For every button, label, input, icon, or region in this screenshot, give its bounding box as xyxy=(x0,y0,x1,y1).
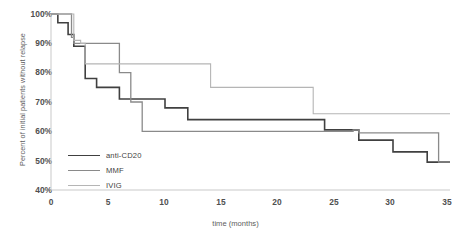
series-line-anti-cd20 xyxy=(51,14,450,162)
legend: anti-CD20 MMF IVIG xyxy=(68,148,142,193)
legend-item-anti-cd20: anti-CD20 xyxy=(68,148,142,163)
plot-area xyxy=(0,0,471,237)
legend-swatch-ivig xyxy=(68,185,100,186)
legend-label-mmf: MMF xyxy=(106,166,124,175)
legend-swatch-anti-cd20 xyxy=(68,155,100,156)
series-line-ivig xyxy=(51,14,450,114)
x-axis-title: time (months) xyxy=(0,219,471,228)
legend-item-mmf: MMF xyxy=(68,163,142,178)
series-layer xyxy=(51,14,450,162)
legend-swatch-mmf xyxy=(68,170,100,171)
legend-label-ivig: IVIG xyxy=(106,181,122,190)
kaplan-meier-chart: Percent of initial patients without rela… xyxy=(0,0,471,237)
legend-item-ivig: IVIG xyxy=(68,178,142,193)
legend-label-anti-cd20: anti-CD20 xyxy=(106,151,142,160)
